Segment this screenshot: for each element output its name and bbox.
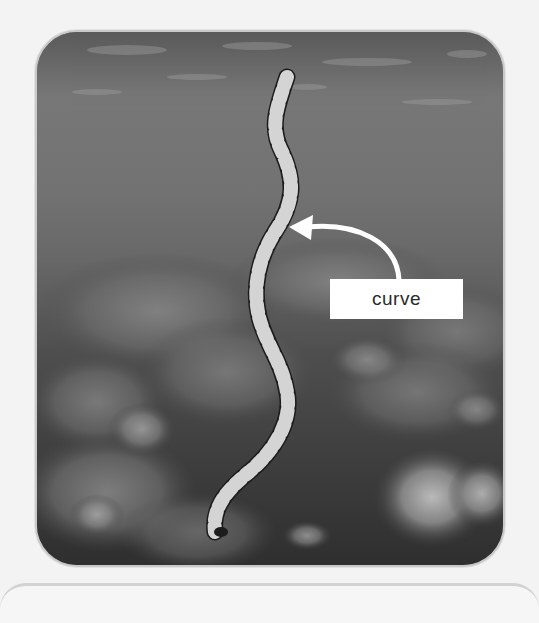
bottom-panel (0, 583, 539, 623)
snake-head (214, 527, 228, 537)
annotation-label: curve (330, 279, 463, 319)
